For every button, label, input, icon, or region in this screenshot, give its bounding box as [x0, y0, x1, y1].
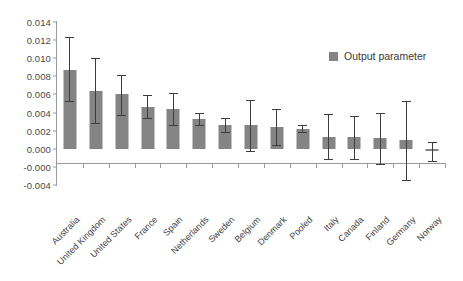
bar-group[interactable] [160, 22, 186, 185]
error-bar-cap-upper [65, 37, 74, 38]
error-bar-cap-upper [246, 100, 255, 101]
legend-swatch-icon [329, 52, 338, 61]
error-bar-line [199, 113, 200, 126]
error-bar-cap-upper [221, 118, 230, 119]
error-bar-cap-lower [376, 164, 385, 165]
bar-group[interactable] [83, 22, 109, 185]
bar-group[interactable] [212, 22, 238, 185]
bar-group[interactable] [342, 22, 368, 185]
error-bar-cap-upper [350, 116, 359, 117]
bar-group[interactable] [419, 22, 445, 185]
error-bar-cap-upper [272, 109, 281, 110]
error-bar-cap-upper [402, 101, 411, 102]
bar-group[interactable] [57, 22, 83, 185]
error-bar-cap-upper [376, 113, 385, 114]
error-bar-cap-lower [402, 180, 411, 181]
error-bar-line [406, 101, 407, 180]
bar-group[interactable] [393, 22, 419, 185]
error-bar-cap-lower [428, 161, 437, 162]
x-tick-mark [135, 163, 136, 168]
y-tick-label: -0.004 [23, 180, 57, 191]
error-bar-cap-lower [298, 132, 307, 133]
bar-group[interactable] [186, 22, 212, 185]
x-tick-mark [393, 163, 394, 168]
error-bar-cap-upper [298, 125, 307, 126]
error-bar-line [328, 114, 329, 158]
error-bar-cap-upper [324, 114, 333, 115]
error-bar-cap-lower [117, 115, 126, 116]
error-bar-cap-lower [65, 101, 74, 102]
error-bar-cap-lower [143, 118, 152, 119]
error-bar-line [432, 142, 433, 161]
x-tick-mark [109, 163, 110, 168]
bar-series-group [57, 22, 445, 185]
bar-group[interactable] [316, 22, 342, 185]
error-bar-line [147, 95, 148, 118]
error-bar-cap-lower [221, 132, 230, 133]
error-bar-cap-lower [91, 123, 100, 124]
error-bar-line [380, 113, 381, 165]
error-bar-line [250, 100, 251, 151]
x-tick-mark [342, 163, 343, 168]
error-bar-line [95, 58, 96, 123]
bar-group[interactable] [290, 22, 316, 185]
x-tick-mark [238, 163, 239, 168]
error-bar-line [173, 93, 174, 126]
bar-group[interactable] [264, 22, 290, 185]
bar-group[interactable] [135, 22, 161, 185]
legend-label: Output parameter [344, 50, 426, 62]
x-tick-mark [264, 163, 265, 168]
error-bar-cap-lower [169, 125, 178, 126]
error-bar-cap-upper [117, 75, 126, 76]
error-bar-cap-upper [143, 95, 152, 96]
x-tick-mark [186, 163, 187, 168]
error-bar-cap-lower [350, 159, 359, 160]
plot-area: 0.0140.0120.0100.0080.0060.0040.0020.000… [57, 22, 445, 185]
bar-group[interactable] [109, 22, 135, 185]
error-bar-cap-lower [246, 151, 255, 152]
legend: Output parameter [329, 50, 426, 62]
x-tick-mark [419, 163, 420, 168]
error-bar-line [69, 37, 70, 100]
error-bar-line [121, 75, 122, 116]
error-bar-line [354, 116, 355, 159]
error-bar-cap-lower [324, 159, 333, 160]
x-tick-mark [367, 163, 368, 168]
bar-group[interactable] [238, 22, 264, 185]
error-bar-line [225, 118, 226, 132]
error-bar-line [276, 109, 277, 145]
bar-chart: 0.0140.0120.0100.0080.0060.0040.0020.000… [0, 0, 463, 281]
error-bar-cap-lower [272, 145, 281, 146]
bar-group[interactable] [367, 22, 393, 185]
error-bar-cap-upper [169, 93, 178, 94]
x-tick-mark [445, 163, 446, 168]
error-bar-cap-lower [195, 125, 204, 126]
y-tick-label: -0.000 [23, 161, 57, 172]
error-bar-cap-upper [195, 113, 204, 114]
x-tick-mark [160, 163, 161, 168]
x-tick-mark [212, 163, 213, 168]
x-tick-mark [83, 163, 84, 168]
error-bar-cap-upper [91, 58, 100, 59]
x-tick-mark [316, 163, 317, 168]
x-tick-mark [290, 163, 291, 168]
error-bar-cap-upper [428, 142, 437, 143]
